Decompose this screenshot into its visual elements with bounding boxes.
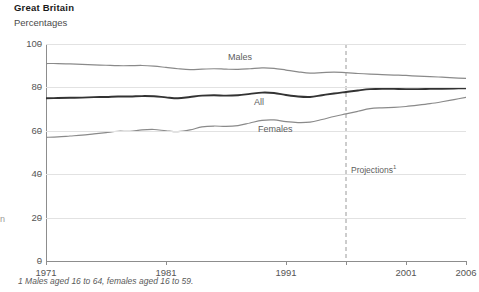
- y-axis-tick-mark: [38, 218, 42, 219]
- y-axis-tick-mark: [38, 131, 42, 132]
- x-axis-tick-mark: [346, 261, 347, 265]
- y-axis-tick-mark: [38, 44, 42, 45]
- chart-footnote: 1 Males aged 16 to 64, females aged 16 t…: [18, 276, 193, 286]
- series-label-females: Females: [258, 124, 293, 134]
- y-axis-tick-mark: [38, 261, 42, 262]
- y-axis-ticks: 020406080100: [0, 44, 42, 262]
- chart-subtitle: Percentages: [14, 17, 67, 28]
- chart-figure: Great Britain Percentages n 020406080100…: [0, 0, 479, 292]
- projections-footnote-marker: 1: [393, 164, 396, 170]
- gridline: [46, 44, 466, 45]
- gridline: [46, 218, 466, 219]
- gridline: [46, 131, 466, 132]
- x-axis-line: [46, 261, 466, 262]
- series-line-males: [46, 63, 466, 78]
- page-title: Great Britain: [14, 2, 74, 13]
- y-axis-tick-mark: [38, 174, 42, 175]
- series-label-males: Males: [228, 52, 252, 62]
- gridline: [46, 87, 466, 88]
- x-axis-tick-mark: [166, 261, 167, 265]
- x-axis-tick-mark: [46, 261, 47, 265]
- x-axis-tick-label: 2001: [395, 267, 416, 278]
- x-axis-tick-mark: [286, 261, 287, 265]
- x-axis-tick-mark: [466, 261, 467, 265]
- series-lines: [46, 44, 466, 261]
- y-axis-tick-mark: [38, 87, 42, 88]
- plot-area: [46, 44, 466, 261]
- x-axis-tick-label: 1991: [275, 267, 296, 278]
- projections-text: Projections: [351, 165, 393, 175]
- x-axis-tick-label: 2006: [455, 267, 476, 278]
- series-label-all: All: [254, 97, 264, 107]
- projections-annotation: Projections1: [351, 164, 396, 175]
- gridline: [46, 174, 466, 175]
- x-axis-tick-mark: [406, 261, 407, 265]
